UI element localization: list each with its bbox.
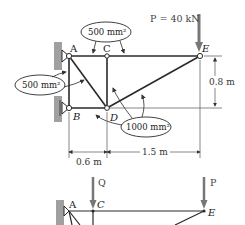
members — [69, 56, 200, 108]
load-label-q: Q — [98, 177, 106, 188]
label-joint-b: B — [72, 111, 80, 122]
dimension-lines — [69, 56, 222, 158]
area-label-left: 500 mm² — [22, 80, 60, 90]
joint-e — [197, 53, 202, 58]
joint-c — [105, 54, 109, 58]
bottom-truss: Q P A C E — [56, 177, 217, 225]
area-label-top: 500 mm² — [88, 27, 126, 37]
top-truss: A B C D E P = 40 kN 500 mm² 500 mm² 1000… — [15, 13, 242, 167]
label-joint-a: A — [69, 43, 78, 54]
label-joint-e: E — [201, 43, 210, 54]
joint-d — [105, 106, 110, 111]
wall-support-b — [54, 96, 62, 122]
label-bottom-e: E — [207, 207, 216, 218]
label-bottom-a: A — [68, 199, 77, 210]
dim-span1: 0.6 m — [76, 157, 102, 167]
member-de — [107, 56, 200, 108]
joint-b — [66, 105, 71, 110]
truss-diagram: A B C D E P = 40 kN 500 mm² 500 mm² 1000… — [0, 0, 245, 225]
load-label-p: P = 40 kN — [150, 13, 200, 24]
wall-support-bottom — [56, 200, 64, 225]
label-bottom-c: C — [97, 199, 105, 210]
label-joint-c: C — [103, 43, 111, 54]
member-ad — [69, 56, 107, 108]
area-label-diag: 1000 mm² — [126, 122, 170, 132]
joint-a — [66, 53, 71, 58]
wall-support-a — [54, 42, 62, 70]
dim-height: 0.8 m — [209, 77, 235, 87]
load-label-p-bottom: P — [210, 177, 217, 188]
dim-span2: 1.5 m — [142, 147, 168, 157]
label-joint-d: D — [109, 112, 118, 123]
